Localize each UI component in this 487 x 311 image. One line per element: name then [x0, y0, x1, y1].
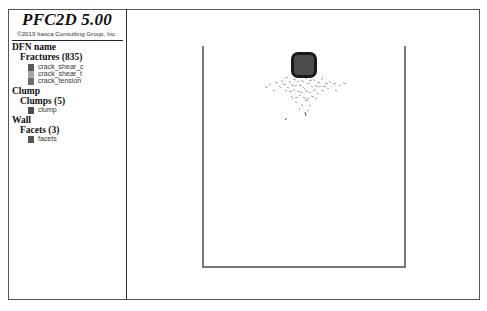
legend-item-clump: clump: [38, 106, 57, 113]
legend-subheading-facets: Facets (3): [20, 125, 59, 135]
copyright-text: ©2019 Itasca Consulting Group, Inc.: [8, 30, 126, 37]
legend-heading-clump: Clump: [12, 86, 40, 96]
legend-item-crack-shear-c: crack_shear_c: [38, 63, 84, 70]
clump-particle: [291, 52, 317, 78]
legend-heading-dfn: DFN name: [12, 42, 56, 52]
legend-subheading-clumps: Clumps (5): [20, 96, 65, 106]
swatch-facets: [28, 136, 34, 143]
legend-item-crack-tension: crack_tension: [38, 77, 81, 84]
legend-item-facets: facets: [38, 135, 57, 142]
swatch-clump: [28, 107, 34, 114]
swatch-crack-tension: [28, 78, 34, 85]
swatch-crack-shear-t: [28, 71, 34, 78]
swatch-crack-shear-c: [28, 64, 34, 71]
legend-subheading-fractures: Fractures (835): [20, 52, 82, 62]
title-separator: [12, 40, 123, 41]
fracture-cloud: [255, 70, 355, 125]
wall-bottom-facet: [202, 266, 406, 268]
wall-left-facet: [202, 46, 204, 267]
legend-item-crack-shear-t: crack_shear_t: [38, 70, 82, 77]
legend-panel: PFC2D 5.00 ©2019 Itasca Consulting Group…: [8, 9, 127, 300]
wall-right-facet: [404, 46, 406, 267]
legend-heading-wall: Wall: [12, 115, 31, 125]
app-title: PFC2D 5.00: [8, 10, 126, 30]
